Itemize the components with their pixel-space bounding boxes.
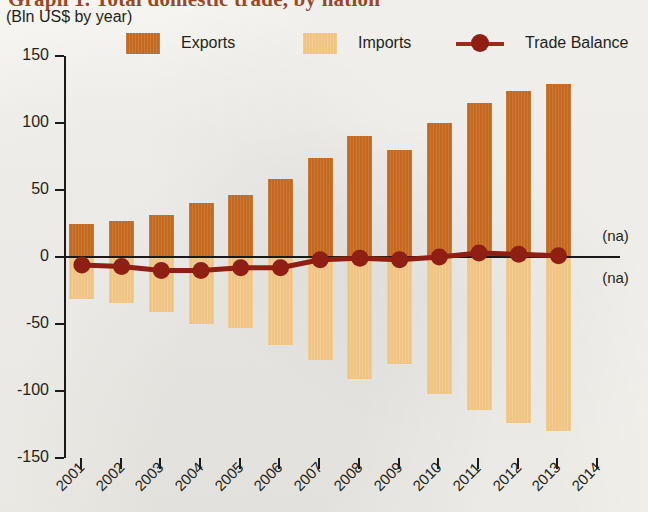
annotation-na-upper: (na): [602, 227, 629, 244]
trade-balance-point: [550, 247, 567, 264]
y-tick-label: -50: [0, 314, 49, 332]
y-tick: [55, 390, 64, 392]
legend-dot: [471, 34, 489, 52]
legend-marker-trade-balance: [456, 33, 504, 54]
y-tick: [55, 256, 64, 258]
y-tick-label: -100: [0, 381, 49, 399]
trade-balance-point: [510, 246, 527, 263]
trade-balance-point: [232, 259, 249, 276]
y-tick: [55, 55, 64, 57]
legend-label: Exports: [181, 34, 235, 52]
x-tick-label: 2012: [489, 458, 525, 494]
x-tick-label: 2005: [211, 458, 247, 494]
chart-figure: Graph 1. Total domestic trade, by nation…: [0, 0, 648, 512]
annotation-na-lower: (na): [602, 269, 629, 286]
y-tick-label: 100: [0, 113, 49, 131]
trade-balance-point: [471, 245, 488, 262]
y-tick: [55, 457, 64, 459]
x-tick-label: 2001: [52, 458, 88, 494]
trade-balance-point: [431, 249, 448, 266]
legend-label: Imports: [358, 34, 411, 52]
legend-swatch-imports: [303, 33, 337, 54]
x-tick-label: 2008: [330, 458, 366, 494]
legend-item-exports: Exports: [126, 31, 235, 55]
trade-balance-point: [351, 250, 368, 267]
trade-balance-point: [193, 262, 210, 279]
trade-balance-line: [64, 56, 620, 458]
y-tick-label: 150: [0, 46, 49, 64]
chart-subtitle: (Bln US$ by year): [6, 8, 132, 26]
trade-balance-point: [153, 262, 170, 279]
y-tick: [55, 122, 64, 124]
x-tick-label: 2013: [528, 458, 564, 494]
y-tick-label: 0: [0, 247, 49, 265]
legend-item-trade-balance: Trade Balance: [456, 31, 628, 55]
x-tick-label: 2009: [370, 458, 406, 494]
x-tick-label: 2014: [568, 458, 604, 494]
y-tick-label: 50: [0, 180, 49, 198]
trade-balance-point: [391, 251, 408, 268]
x-tick-label: 2002: [92, 458, 128, 494]
trade-balance-point: [312, 251, 329, 268]
x-tick-label: 2004: [171, 458, 207, 494]
y-tick: [55, 189, 64, 191]
plot-area: (na) (na): [64, 56, 620, 458]
trade-balance-point: [113, 258, 130, 275]
legend-label: Trade Balance: [525, 34, 628, 52]
legend-swatch-exports: [126, 33, 160, 54]
x-tick-label: 2010: [409, 458, 445, 494]
y-tick: [55, 323, 64, 325]
trade-balance-point: [272, 259, 289, 276]
x-tick-label: 2006: [250, 458, 286, 494]
trade-balance-point: [73, 257, 90, 274]
x-tick-label: 2007: [290, 458, 326, 494]
legend-item-imports: Imports: [303, 31, 411, 55]
x-tick-label: 2003: [131, 458, 167, 494]
y-tick-label: -150: [0, 448, 49, 466]
